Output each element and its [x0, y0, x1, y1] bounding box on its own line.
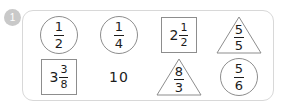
- answer-choices-card: 1 2 1 4 2: [22, 10, 274, 101]
- numerator: 5: [234, 62, 244, 75]
- answer-choice-cell-1[interactable]: 1 2: [29, 14, 89, 56]
- answer-choice-cell-6[interactable]: 10: [89, 56, 149, 98]
- denominator: 2: [54, 37, 64, 50]
- answer-choice-cell-2[interactable]: 1 4: [89, 14, 149, 56]
- fraction-3: 1 2: [179, 22, 188, 47]
- answer-choice-cell-5[interactable]: 3 3 8: [29, 56, 89, 98]
- square-shape-3: 2 1 2: [161, 17, 197, 53]
- no-shape-6: 10: [100, 58, 138, 96]
- exercise-screen: 1 1 2 1 4: [0, 0, 283, 109]
- denominator: 4: [114, 37, 124, 50]
- denominator: 6: [234, 79, 244, 92]
- fraction-8: 5 6: [234, 62, 244, 92]
- fraction-4: 5 5: [234, 23, 244, 53]
- circle-shape-1: 1 2: [40, 16, 78, 54]
- numerator: 1: [54, 20, 64, 33]
- denominator: 2: [179, 37, 188, 48]
- numerator: 1: [114, 20, 124, 33]
- numerator: 3: [59, 64, 68, 75]
- numerator: 8: [174, 65, 184, 78]
- answer-choice-cell-7[interactable]: 8 3: [149, 56, 209, 98]
- answer-choice-cell-3[interactable]: 2 1 2: [149, 14, 209, 56]
- mixed-number-5: 3 3 8: [50, 64, 69, 89]
- answer-choice-cell-4[interactable]: 5 5: [209, 14, 269, 56]
- triangle-shape-7: 8 3: [156, 58, 202, 96]
- fraction-2: 1 4: [114, 20, 124, 50]
- denominator: 8: [59, 79, 68, 90]
- answer-choice-cell-8[interactable]: 5 6: [209, 56, 269, 98]
- square-shape-5: 3 3 8: [41, 59, 77, 95]
- denominator: 3: [174, 81, 184, 94]
- fraction-7: 8 3: [174, 65, 184, 95]
- whole-part: 2: [170, 28, 179, 42]
- triangle-shape-4: 5 5: [216, 16, 262, 54]
- whole-part: 3: [50, 70, 59, 84]
- whole-number-6: 10: [109, 70, 129, 84]
- circle-shape-8: 5 6: [220, 58, 258, 96]
- numerator: 1: [179, 22, 188, 33]
- denominator: 5: [234, 39, 244, 52]
- fraction-1: 1 2: [54, 20, 64, 50]
- fraction-5: 3 8: [59, 64, 68, 89]
- answer-choices-grid: 1 2 1 4 2: [23, 11, 275, 102]
- question-number-badge: 1: [4, 9, 21, 26]
- circle-shape-2: 1 4: [100, 16, 138, 54]
- numerator: 5: [234, 23, 244, 36]
- mixed-number-3: 2 1 2: [170, 22, 189, 47]
